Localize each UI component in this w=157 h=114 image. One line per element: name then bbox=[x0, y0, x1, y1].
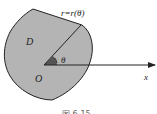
region-label: D bbox=[25, 36, 34, 47]
axis-label: x bbox=[143, 72, 148, 82]
region-d bbox=[4, 9, 92, 100]
polar-region-diagram: r=r(θ) D θ O x 图 6-15 bbox=[0, 0, 157, 114]
figure-caption: 图 6-15 bbox=[62, 110, 91, 114]
curve-label: r=r(θ) bbox=[61, 8, 85, 18]
origin-label: O bbox=[35, 73, 42, 84]
angle-label: θ bbox=[61, 55, 66, 65]
